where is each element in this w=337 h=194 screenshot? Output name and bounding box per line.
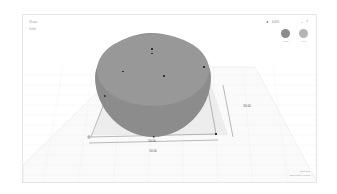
edge-handle-front [153, 136, 155, 138]
solid-label: Solid [283, 40, 289, 43]
side-handle-right [203, 66, 205, 68]
3d-scene[interactable]: 50.00 50.00 30.00 [23, 15, 317, 183]
panel-label-shape: Shape [29, 20, 38, 24]
grid-settings: Edit Grid Snap Grid 1.0 mm [290, 170, 310, 178]
hole-color-circle[interactable] [299, 29, 308, 38]
corner-handle-right [215, 133, 217, 135]
side-handle-front-left [104, 95, 106, 97]
shape-top-face [97, 34, 209, 106]
color-swatches: Solid Hole [281, 29, 308, 43]
snap-grid-select[interactable]: Snap Grid 1.0 mm [290, 174, 310, 178]
hole-swatch[interactable]: Hole [299, 29, 308, 43]
shape-panel-labels: Shape Solid [29, 20, 38, 34]
height-dimension[interactable]: 30.00 [243, 104, 251, 108]
center-handle [163, 75, 165, 77]
arrow-left-icon[interactable]: ◂ [266, 19, 268, 24]
zoom-level: 100% [272, 20, 280, 24]
hole-label: Hole [301, 40, 306, 43]
side-handle-left [122, 71, 124, 72]
lock-icon[interactable]: ▪ [301, 20, 302, 24]
help-icon[interactable]: ? [306, 20, 308, 24]
solid-color-circle[interactable] [281, 29, 290, 38]
rotate-handle [151, 53, 153, 54]
inspector-toolbar: ◂ 100% ▪ ? [266, 19, 308, 24]
panel-label-solid: Solid [29, 27, 38, 31]
workplane-viewport[interactable]: 50.00 50.00 30.00 Shape Solid ◂ 100% ▪ ?… [22, 14, 317, 183]
height-handle [151, 48, 153, 50]
corner-handle-left [88, 136, 90, 138]
depth-dimension-label[interactable]: 50.00 [149, 149, 157, 153]
width-dimension[interactable]: 50.00 [148, 139, 156, 143]
solid-swatch[interactable]: Solid [281, 29, 290, 43]
